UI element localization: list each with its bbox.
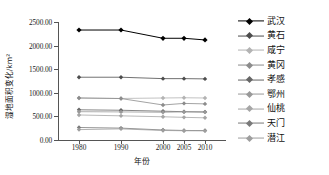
y-tick-label: 0.00 [40, 136, 52, 145]
legend-diamond-icon [246, 76, 253, 83]
y-tick-label: 1500.00 [29, 65, 52, 74]
x-axis-line [58, 140, 226, 141]
legend-item-天门[interactable]: 天门 [238, 116, 326, 131]
y-tick-mark [54, 46, 58, 47]
legend-item-黄石[interactable]: 黄石 [238, 29, 326, 44]
y-tick-mark [54, 140, 58, 141]
legend-diamond-icon [246, 32, 253, 39]
y-tick-mark [54, 93, 58, 94]
x-axis-title: 年份 [58, 155, 226, 166]
plot-area [58, 22, 226, 140]
legend-label: 武汉 [264, 17, 285, 26]
y-tick-label: 2000.00 [29, 41, 52, 50]
legend-key-icon [238, 74, 264, 86]
legend-label: 咸宁 [264, 46, 285, 55]
x-tick-label: 2010 [198, 143, 213, 152]
legend-item-武汉[interactable]: 武汉 [238, 14, 326, 29]
legend-diamond-icon [246, 47, 253, 54]
y-axis-line [58, 22, 59, 140]
legend-label: 鄂州 [264, 90, 285, 99]
legend-item-孝感[interactable]: 孝感 [238, 72, 326, 87]
y-tick-mark [54, 22, 58, 23]
legend-diamond-icon [246, 18, 253, 25]
legend-label: 潜江 [264, 134, 285, 143]
legend-label: 天门 [264, 119, 285, 128]
x-tick-label: 2000 [156, 143, 171, 152]
y-tick-label: 500.00 [33, 112, 52, 121]
legend-key-icon [238, 132, 264, 144]
legend-item-鄂州[interactable]: 鄂州 [238, 87, 326, 102]
legend-key-icon [238, 59, 264, 71]
legend-diamond-icon [246, 62, 253, 69]
legend-key-icon [238, 44, 264, 56]
legend-label: 黄冈 [264, 61, 285, 70]
legend-diamond-icon [246, 120, 253, 127]
legend-label: 黄石 [264, 31, 285, 40]
y-tick-label: 1000.00 [29, 88, 52, 97]
x-tick-label: 1990 [114, 143, 129, 152]
legend-item-仙桃[interactable]: 仙桃 [238, 102, 326, 117]
legend-key-icon [238, 103, 264, 115]
x-tick-label: 1980 [72, 143, 87, 152]
legend-item-潜江[interactable]: 潜江 [238, 131, 326, 146]
legend-key-icon [238, 15, 264, 27]
legend-diamond-icon [246, 105, 253, 112]
legend-key-icon [238, 30, 264, 42]
legend-item-咸宁[interactable]: 咸宁 [238, 43, 326, 58]
legend-key-icon [238, 117, 264, 129]
legend-diamond-icon [246, 135, 253, 142]
y-axis-title: 湿地面积变化/km² [3, 35, 14, 139]
chart-root: 0.00500.001000.001500.002000.002500.00 1… [0, 0, 329, 175]
y-tick-mark [54, 69, 58, 70]
legend-item-黄冈[interactable]: 黄冈 [238, 58, 326, 73]
legend-diamond-icon [246, 91, 253, 98]
y-tick-mark [54, 116, 58, 117]
legend-label: 仙桃 [264, 104, 285, 113]
legend-label: 孝感 [264, 75, 285, 84]
x-tick-label: 2005 [177, 143, 192, 152]
legend: 武汉黄石咸宁黄冈孝感鄂州仙桃天门潜江 [238, 14, 326, 145]
legend-key-icon [238, 88, 264, 100]
y-tick-label: 2500.00 [29, 18, 52, 27]
